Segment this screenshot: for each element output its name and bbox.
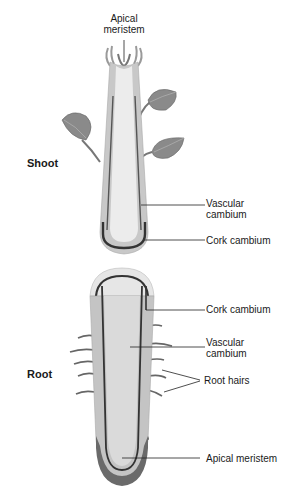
label-root-hairs: Root hairs bbox=[204, 375, 250, 386]
shoot-structure bbox=[62, 46, 184, 254]
label-root-apical-meristem: Apical meristem bbox=[206, 453, 277, 464]
label-root-cork-cambium: Cork cambium bbox=[206, 304, 270, 315]
leader-root-hairs-1 bbox=[162, 370, 200, 380]
leaf-left bbox=[62, 113, 100, 162]
label-shoot-apical-meristem: Apical meristem bbox=[100, 13, 148, 35]
label-shoot-vascular-cambium: Vascular cambium bbox=[206, 198, 247, 220]
leader-root-hairs-2 bbox=[164, 381, 200, 392]
label-root-vascular-cambium: Vascular cambium bbox=[206, 337, 247, 359]
section-label-shoot: Shoot bbox=[27, 157, 58, 169]
root-inner-tissue bbox=[104, 296, 140, 466]
label-shoot-apical-line1: Apical bbox=[100, 13, 148, 24]
label-shoot-vascular-line1: Vascular bbox=[206, 198, 247, 209]
root-structure bbox=[70, 268, 172, 486]
label-shoot-apical-line2: meristem bbox=[100, 24, 148, 35]
label-shoot-vascular-line2: cambium bbox=[206, 209, 247, 220]
meristem-diagram bbox=[0, 0, 292, 497]
leaf-upper-right bbox=[136, 89, 176, 128]
label-root-vascular-line1: Vascular bbox=[206, 337, 247, 348]
label-root-vascular-line2: cambium bbox=[206, 348, 247, 359]
label-shoot-cork-cambium: Cork cambium bbox=[206, 235, 270, 246]
root-hairs-left bbox=[70, 335, 95, 394]
root-top-dome bbox=[90, 268, 154, 296]
section-label-root: Root bbox=[27, 368, 52, 380]
